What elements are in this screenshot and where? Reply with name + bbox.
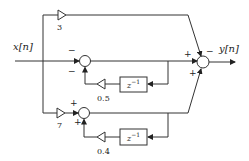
gain-triangle-3: [58, 10, 66, 20]
sign-summer2-top: +: [70, 98, 78, 108]
top-path: [66, 15, 201, 56]
gain-label-top: 3: [57, 23, 62, 32]
gain-label-0.5: 0.5: [97, 94, 110, 103]
fb2-return: [84, 120, 97, 138]
output-summer: [197, 56, 209, 68]
output-label: y[n]: [218, 43, 239, 54]
gain-label-0.4: 0.4: [97, 147, 110, 156]
sign-out-bottom: +: [189, 68, 197, 78]
summer-1: [80, 56, 91, 67]
gain-triangle-0.5: [97, 79, 105, 89]
sign-summer1-left: −: [68, 45, 76, 55]
gain-triangle-0.4: [97, 132, 105, 142]
block-diagram: x[n] 3 − − z−1 0.5 7 + + z−1 0.4 + − + y…: [0, 0, 249, 161]
sign-out-left: +: [184, 49, 192, 59]
gain-label-bottom: 7: [57, 121, 62, 130]
fb1-return: [85, 68, 97, 85]
gain-triangle-7: [57, 108, 65, 118]
sign-out-top: −: [206, 46, 214, 56]
input-label: x[n]: [13, 41, 33, 52]
sign-summer1-bottom: −: [68, 66, 76, 76]
sign-summer2-bottom: +: [74, 117, 82, 127]
